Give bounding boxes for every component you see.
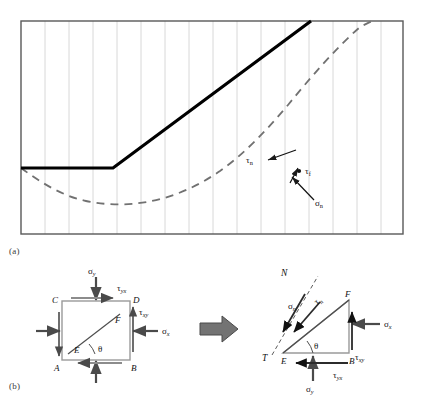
- angle-arc-theta: [89, 344, 95, 354]
- vertex-label-F-right: F: [344, 289, 351, 299]
- vertex-label-E-right: E: [280, 356, 287, 366]
- panel-label-b: (b): [9, 381, 20, 391]
- vertex-label-D: D: [132, 295, 140, 305]
- vertex-label-E: E: [73, 345, 80, 355]
- axis-label-T: T: [262, 353, 268, 363]
- chart-series-failure-envelope: [21, 21, 311, 168]
- transform-arrow: [200, 316, 238, 342]
- stress-label-sigma-x-left: σx: [162, 326, 170, 337]
- panel-b-left-element: C D A B E F θ σy σx τyx τxy: [36, 266, 170, 383]
- chart-series-stress-path-curve: [21, 21, 372, 204]
- annotation-tau-f: τf: [305, 166, 312, 177]
- stress-label-tau-yx-right: τyx: [333, 370, 342, 381]
- stress-label-sigma-y-left: σy: [88, 266, 96, 277]
- vertex-label-F: F: [114, 315, 121, 325]
- tau-xy-sub: xy: [142, 311, 149, 318]
- tau-yx-sub: yx: [120, 287, 127, 294]
- annotation-sigma-n: σn: [315, 198, 324, 209]
- annotation-point-tau-f: [297, 169, 301, 173]
- annotation-tau-n-sub: n: [250, 159, 254, 166]
- tau-xy-sub-r: xy: [358, 356, 365, 363]
- stress-label-sigma-x-right: σx: [384, 319, 392, 330]
- vertex-label-A: A: [53, 363, 60, 373]
- sigma-n-sub-r: n: [293, 305, 296, 312]
- stress-label-tau-yx-left: τyx: [117, 283, 126, 294]
- vertex-label-C: C: [52, 295, 59, 305]
- annotation-leader-tau-f: [290, 168, 298, 183]
- chart-gridlines: [45, 21, 381, 234]
- stress-label-tau-n-right: τn: [312, 295, 325, 308]
- sigma-y-sub: y: [92, 270, 96, 277]
- stress-label-sigma-y-right: σy: [306, 384, 314, 395]
- angle-label-theta-right: θ: [314, 341, 318, 351]
- vertex-label-B: B: [131, 363, 137, 373]
- figure-root: τn τf σn: [0, 0, 427, 409]
- panel-label-a: (a): [9, 246, 20, 256]
- stress-label-tau-xy-right: τxy: [355, 352, 364, 363]
- sigma-x-sub: x: [166, 330, 170, 337]
- annotation-sigma-n-sub: n: [320, 202, 324, 209]
- panel-a-chart: τn τf σn: [21, 21, 403, 234]
- annotation-leader-tau-n: [268, 150, 296, 160]
- annotation-leader-sigma-n: [292, 177, 314, 200]
- stress-label-sigma-n-right: σn: [288, 301, 296, 312]
- arrow-sigma-n[interactable]: [283, 294, 305, 332]
- annotation-tau-f-sub: f: [309, 170, 312, 177]
- figure-svg: τn τf σn: [0, 0, 427, 409]
- annotation-tau-n: τn: [246, 155, 254, 166]
- angle-arc-theta-right: [307, 341, 313, 353]
- sigma-x-sub-r: x: [388, 323, 392, 330]
- panel-b-right-element: N T E B F θ σn τn σx σy τxy: [262, 268, 392, 395]
- axis-label-N: N: [280, 268, 288, 278]
- stress-label-tau-xy-left: τxy: [139, 307, 148, 318]
- sigma-y-sub-r: y: [310, 388, 314, 395]
- angle-label-theta-left: θ: [98, 344, 102, 354]
- tau-yx-sub-r: yx: [336, 374, 343, 381]
- chart-frame: [21, 21, 403, 234]
